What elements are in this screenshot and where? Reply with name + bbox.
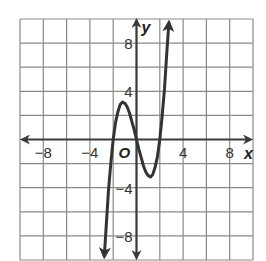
- y-axis-title: y: [141, 19, 152, 36]
- origin-label: O: [119, 144, 131, 161]
- cubic-function-graph: −8−44884−4−8 x y O: [0, 0, 266, 261]
- y-tick-label: −4: [115, 180, 132, 197]
- x-tick-label: −8: [35, 144, 52, 161]
- y-tick-label: 8: [124, 35, 132, 52]
- y-tick-label: −8: [115, 228, 132, 245]
- y-tick-label: 4: [124, 83, 132, 100]
- x-tick-label: −4: [81, 144, 98, 161]
- x-axis-title: x: [243, 145, 254, 162]
- x-tick-label: 4: [179, 144, 187, 161]
- x-tick-label: 8: [226, 144, 234, 161]
